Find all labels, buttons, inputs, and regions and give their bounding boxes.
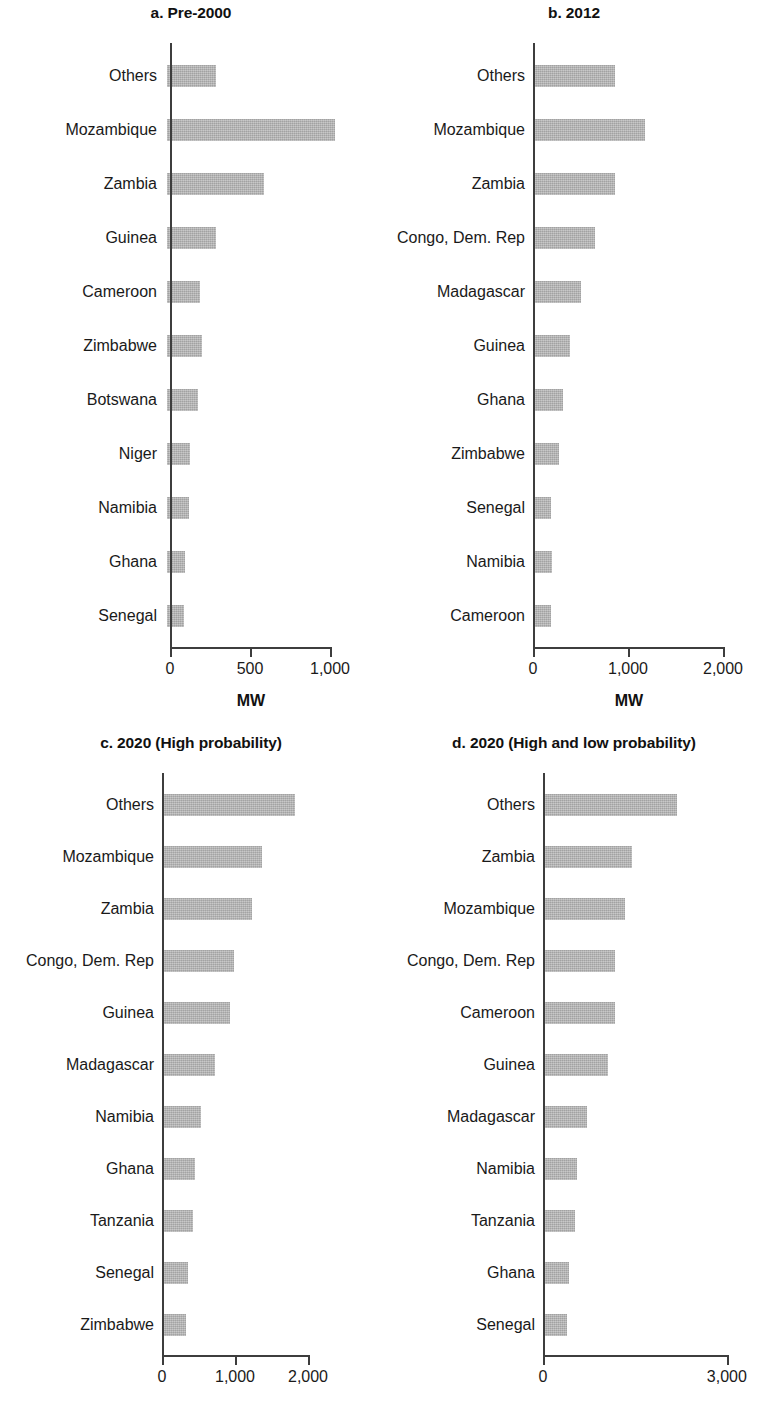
bar bbox=[545, 1002, 615, 1024]
bar bbox=[545, 1106, 587, 1128]
category-label: Others bbox=[0, 797, 162, 813]
category-label: Tanzania bbox=[0, 1213, 162, 1229]
bar bbox=[545, 1262, 569, 1284]
panel-a-title: a. Pre-2000 bbox=[0, 4, 382, 21]
bar bbox=[167, 227, 216, 249]
bar-row: Namibia bbox=[383, 535, 765, 589]
bar-track bbox=[165, 103, 382, 157]
category-label: Madagascar bbox=[383, 1109, 543, 1125]
bar bbox=[167, 335, 202, 357]
bar-row: Tanzania bbox=[0, 1195, 382, 1247]
x-axis-tick-label: 500 bbox=[237, 661, 264, 677]
bar bbox=[545, 1210, 575, 1232]
bar-track bbox=[533, 103, 765, 157]
x-axis-tick-label: 2,000 bbox=[703, 661, 743, 677]
bar-row: Mozambique bbox=[383, 883, 765, 935]
bar bbox=[545, 1314, 567, 1336]
bar-row: Niger bbox=[0, 427, 382, 481]
category-label: Madagascar bbox=[0, 1057, 162, 1073]
bar bbox=[535, 227, 595, 249]
bar-track bbox=[165, 589, 382, 643]
panel-a-plot: OthersMozambiqueZambiaGuineaCameroonZimb… bbox=[0, 43, 382, 643]
category-label: Cameroon bbox=[383, 608, 533, 624]
bar-track bbox=[543, 1247, 765, 1299]
category-label: Ghana bbox=[383, 1265, 543, 1281]
panel-d: d. 2020 (High and low probability) Other… bbox=[383, 734, 765, 1401]
bar-row: Others bbox=[383, 779, 765, 831]
bar-track bbox=[533, 589, 765, 643]
bar bbox=[535, 65, 615, 87]
category-label: Zimbabwe bbox=[0, 338, 165, 354]
x-axis-tick-label: 0 bbox=[529, 661, 538, 677]
category-label: Guinea bbox=[383, 338, 533, 354]
x-axis-tick bbox=[308, 1357, 310, 1365]
bar-track bbox=[543, 831, 765, 883]
bar-track bbox=[165, 373, 382, 427]
category-label: Guinea bbox=[0, 230, 165, 246]
panel-c-plot: OthersMozambiqueZambiaCongo, Dem. RepGui… bbox=[0, 773, 382, 1353]
bar-track bbox=[165, 481, 382, 535]
category-label: Botswana bbox=[0, 392, 165, 408]
bar-track bbox=[533, 481, 765, 535]
bar-rows: OthersMozambiqueZambiaGuineaCameroonZimb… bbox=[0, 49, 382, 643]
bar bbox=[535, 497, 551, 519]
category-label: Others bbox=[383, 797, 543, 813]
category-label: Zambia bbox=[0, 176, 165, 192]
bar-row: Zambia bbox=[0, 883, 382, 935]
bar-row: Botswana bbox=[0, 373, 382, 427]
category-label: Others bbox=[383, 68, 533, 84]
panel-c: c. 2020 (High probability) OthersMozambi… bbox=[0, 734, 382, 1401]
bar bbox=[535, 605, 551, 627]
x-axis-tick bbox=[723, 649, 725, 657]
bar-row: Madagascar bbox=[0, 1039, 382, 1091]
bar-row: Congo, Dem. Rep bbox=[383, 211, 765, 265]
bar-row: Namibia bbox=[0, 481, 382, 535]
category-label: Namibia bbox=[383, 1161, 543, 1177]
panel-d-plot: OthersZambiaMozambiqueCongo, Dem. RepCam… bbox=[383, 773, 765, 1353]
bar-track bbox=[162, 1091, 382, 1143]
x-axis-title: MW bbox=[237, 693, 265, 709]
bar-track bbox=[533, 49, 765, 103]
bar-row: Namibia bbox=[0, 1091, 382, 1143]
bar-row: Others bbox=[383, 49, 765, 103]
x-axis-tick bbox=[543, 1357, 545, 1365]
bar-row: Tanzania bbox=[383, 1195, 765, 1247]
category-label: Mozambique bbox=[383, 122, 533, 138]
bar bbox=[535, 443, 559, 465]
panel-d-title: d. 2020 (High and low probability) bbox=[383, 734, 765, 751]
bar bbox=[535, 389, 563, 411]
category-label: Senegal bbox=[383, 1317, 543, 1333]
category-label: Namibia bbox=[383, 554, 533, 570]
bar-row: Zambia bbox=[383, 157, 765, 211]
bar-track bbox=[162, 1195, 382, 1247]
bar-track bbox=[543, 883, 765, 935]
category-label: Senegal bbox=[0, 1265, 162, 1281]
category-label: Mozambique bbox=[383, 901, 543, 917]
category-label: Mozambique bbox=[0, 849, 162, 865]
bar-row: Zimbabwe bbox=[0, 1299, 382, 1351]
bar-row: Zambia bbox=[383, 831, 765, 883]
category-label: Ghana bbox=[0, 554, 165, 570]
bar bbox=[167, 173, 264, 195]
bar-track bbox=[533, 427, 765, 481]
bar-row: Madagascar bbox=[383, 265, 765, 319]
y-axis-line bbox=[170, 43, 172, 647]
category-label: Tanzania bbox=[383, 1213, 543, 1229]
bar-track bbox=[533, 265, 765, 319]
bar-track bbox=[165, 49, 382, 103]
bar-track bbox=[543, 1091, 765, 1143]
x-axis-line bbox=[543, 1355, 729, 1357]
bar-row: Mozambique bbox=[383, 103, 765, 157]
x-axis-tick bbox=[330, 649, 332, 657]
bar bbox=[164, 1002, 230, 1024]
bar-row: Senegal bbox=[0, 589, 382, 643]
bar bbox=[167, 65, 216, 87]
category-label: Senegal bbox=[383, 500, 533, 516]
category-label: Guinea bbox=[383, 1057, 543, 1073]
bar bbox=[164, 1262, 188, 1284]
bar-row: Congo, Dem. Rep bbox=[383, 935, 765, 987]
category-label: Congo, Dem. Rep bbox=[0, 953, 162, 969]
bar-rows: OthersMozambiqueZambiaCongo, Dem. RepMad… bbox=[383, 49, 765, 643]
bar-row: Senegal bbox=[0, 1247, 382, 1299]
bar bbox=[545, 1054, 608, 1076]
